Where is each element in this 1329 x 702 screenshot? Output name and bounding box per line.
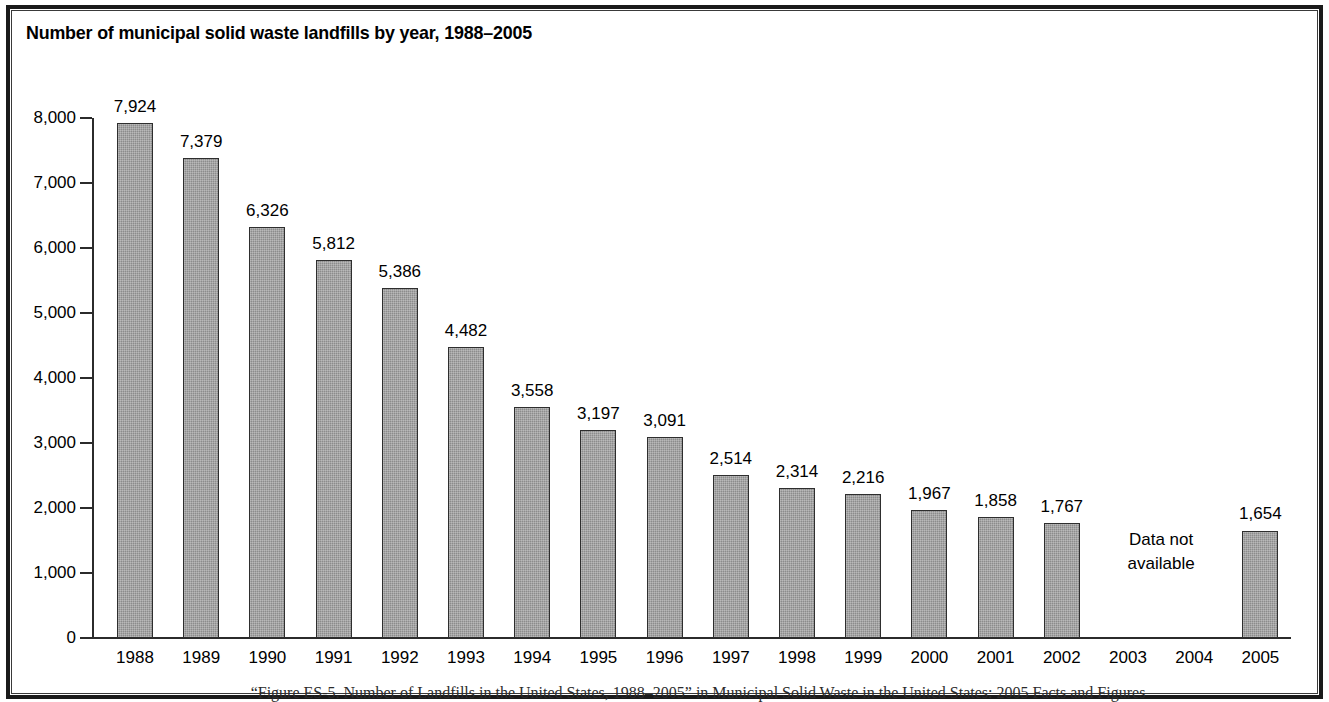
bar[interactable] bbox=[713, 475, 749, 638]
bar-value-label: 7,924 bbox=[90, 97, 180, 117]
bar[interactable] bbox=[183, 158, 219, 638]
bar[interactable] bbox=[978, 517, 1014, 638]
figure-source-citation: “Figure ES-5. Number of Landfills in the… bbox=[148, 684, 1248, 702]
chart-figure: Number of municipal solid waste landfill… bbox=[0, 0, 1329, 702]
bar-slot: 1,8582001 bbox=[963, 0, 1029, 702]
bar-slot: 1,7672002 bbox=[1029, 0, 1095, 702]
bar-slot: 3,1971995 bbox=[565, 0, 631, 702]
bar-slot: 2003 bbox=[1095, 0, 1161, 702]
bar-value-label: 7,379 bbox=[156, 132, 246, 152]
bar[interactable] bbox=[911, 510, 947, 638]
bar-value-label: 5,386 bbox=[355, 262, 445, 282]
bar-value-label: 4,482 bbox=[421, 321, 511, 341]
bar-slot: 1,6542005 bbox=[1227, 0, 1293, 702]
bar-value-label: 3,558 bbox=[487, 381, 577, 401]
bar[interactable] bbox=[845, 494, 881, 638]
bar-value-label: 3,091 bbox=[620, 411, 710, 431]
bar-slot: 2,5141997 bbox=[698, 0, 764, 702]
bar[interactable] bbox=[580, 430, 616, 638]
bar[interactable] bbox=[249, 227, 285, 638]
bar[interactable] bbox=[382, 288, 418, 638]
bar[interactable] bbox=[779, 488, 815, 638]
bar-slot: 3,5581994 bbox=[499, 0, 565, 702]
bar-slot: 2,3141998 bbox=[764, 0, 830, 702]
data-not-available-note-line2: available bbox=[1086, 552, 1236, 576]
bar[interactable] bbox=[514, 407, 550, 638]
bar[interactable] bbox=[448, 347, 484, 638]
bar[interactable] bbox=[316, 260, 352, 638]
bar[interactable] bbox=[1242, 531, 1278, 639]
bar[interactable] bbox=[1044, 523, 1080, 638]
bar-value-label: 6,326 bbox=[222, 201, 312, 221]
bar-slot: 1,9672000 bbox=[896, 0, 962, 702]
bar-slot: 7,9241988 bbox=[102, 0, 168, 702]
bar-value-label: 1,654 bbox=[1215, 504, 1305, 524]
bar-value-label: 5,812 bbox=[289, 234, 379, 254]
data-not-available-note-line1: Data not bbox=[1086, 528, 1236, 552]
bar-slot: 3,0911996 bbox=[632, 0, 698, 702]
bar-slot: 5,8121991 bbox=[301, 0, 367, 702]
bar-slot: 2,2161999 bbox=[830, 0, 896, 702]
bar[interactable] bbox=[117, 123, 153, 638]
bar-slot: 2004 bbox=[1161, 0, 1227, 702]
bar-slot: 6,3261990 bbox=[234, 0, 300, 702]
bar-series: 7,92419887,37919896,32619905,81219915,38… bbox=[0, 0, 1329, 702]
bar[interactable] bbox=[647, 437, 683, 638]
bar-slot: 4,4821993 bbox=[433, 0, 499, 702]
plot-area: 01,0002,0003,0004,0005,0006,0007,0008,00… bbox=[0, 0, 1329, 702]
bar-value-label: 1,767 bbox=[1017, 497, 1107, 517]
bar-slot: 5,3861992 bbox=[367, 0, 433, 702]
x-axis-tick-label: 2005 bbox=[1215, 648, 1305, 668]
data-not-available-note: Data notavailable bbox=[1086, 528, 1236, 576]
bar-slot: 7,3791989 bbox=[168, 0, 234, 702]
